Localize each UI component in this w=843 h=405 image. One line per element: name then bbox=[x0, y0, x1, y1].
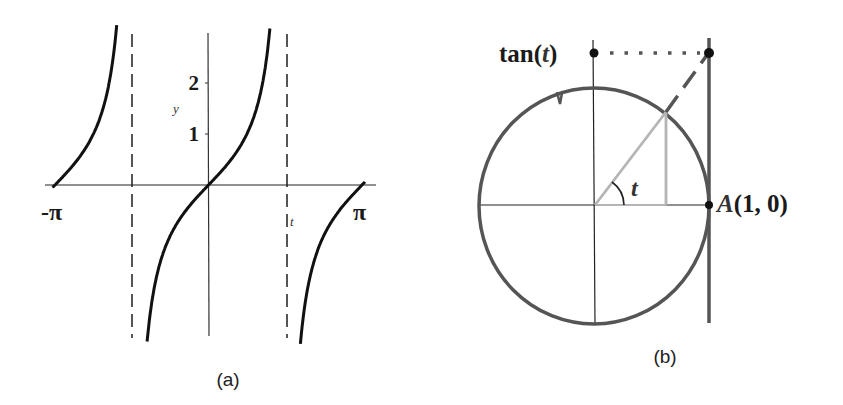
angle-label: t bbox=[631, 175, 639, 201]
figure-b-unit-circle: tan(t) t A(1, 0) (b) bbox=[479, 38, 788, 367]
point-a-label: A(1, 0) bbox=[715, 190, 788, 218]
point-a bbox=[705, 201, 713, 209]
caption-a: (a) bbox=[216, 369, 239, 390]
y-tick-label-1: 1 bbox=[189, 122, 200, 146]
x-tick-label-pi: π bbox=[353, 199, 366, 225]
y-tick-label-2: 2 bbox=[189, 71, 200, 95]
figure-a-tangent-graph: 2 1 y t -π π (a) bbox=[41, 25, 376, 390]
figure-canvas: 2 1 y t -π π (a) tan(t) bbox=[0, 0, 843, 405]
point-a-letter: A bbox=[715, 190, 734, 217]
caption-b: (b) bbox=[653, 346, 676, 367]
radius-extension-dashed bbox=[666, 55, 707, 112]
tan-label-prefix: tan bbox=[499, 40, 534, 67]
angle-arc bbox=[612, 182, 624, 205]
tan-curve-left-branch bbox=[53, 25, 117, 188]
y-axis-label: y bbox=[171, 101, 179, 116]
x-tick-label-neg-pi: -π bbox=[41, 199, 62, 225]
x-axis-label: t bbox=[290, 214, 294, 229]
tan-point-on-axis bbox=[590, 49, 599, 58]
point-a-coords: (1, 0) bbox=[734, 190, 788, 218]
tan-point-on-tangent bbox=[704, 48, 714, 58]
circle-y-axis bbox=[593, 40, 595, 325]
tan-t-label: tan(t) bbox=[499, 40, 557, 68]
